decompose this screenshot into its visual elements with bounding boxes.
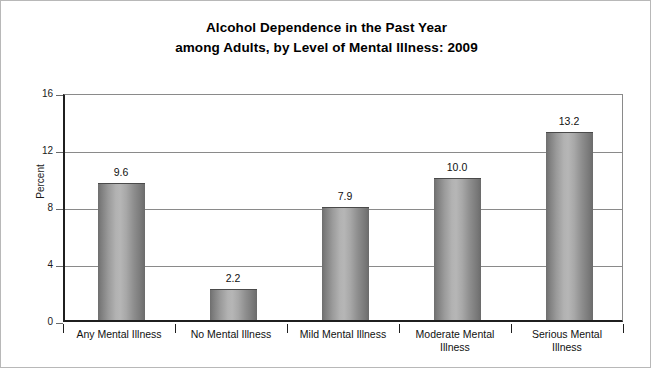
y-tick-label: 16: [29, 88, 53, 99]
x-axis-separator-tick: [287, 324, 288, 333]
x-axis-category-label: No Mental Illness: [175, 328, 287, 341]
y-tick-label: 0: [29, 316, 53, 327]
bar-series: 9.62.27.910.013.2: [65, 95, 622, 320]
bar: [322, 207, 369, 320]
y-tick-mark: [56, 152, 63, 153]
x-axis-category-line: Any Mental Illness: [63, 328, 175, 341]
y-tick-mark: [56, 95, 63, 96]
x-axis-category-line: No Mental Illness: [175, 328, 287, 341]
bar: [546, 132, 593, 320]
x-axis-category-line: Serious Mental: [511, 328, 623, 341]
y-tick-label: 12: [29, 145, 53, 156]
bar: [210, 289, 257, 320]
y-tick-label: 4: [29, 259, 53, 270]
y-tick-label: 8: [29, 202, 53, 213]
x-axis-category-line: Illness: [511, 341, 623, 354]
chart-title-line-1: Alcohol Dependence in the Past Year: [1, 18, 651, 38]
plot-area: 0481216 9.62.27.910.013.2: [63, 94, 623, 322]
bar-value-label: 10.0: [422, 161, 492, 173]
chart-figure: Alcohol Dependence in the Past Year amon…: [0, 0, 651, 368]
bar-value-label: 9.6: [86, 166, 156, 178]
x-axis-separator-tick: [511, 324, 512, 333]
chart-title-line-2: among Adults, by Level of Mental Illness…: [1, 38, 651, 58]
y-tick-mark: [56, 209, 63, 210]
x-axis-separator-tick: [399, 324, 400, 333]
x-axis-category-label: Mild Mental Illness: [287, 328, 399, 341]
x-axis-categories: Any Mental IllnessNo Mental IllnessMild …: [63, 324, 623, 366]
bar-slot: 13.2: [513, 95, 625, 320]
x-axis-category-line: Moderate Mental: [399, 328, 511, 341]
bar-slot: 9.6: [65, 95, 177, 320]
x-axis-separator-tick: [175, 324, 176, 333]
x-axis-category-line: Mild Mental Illness: [287, 328, 399, 341]
x-axis-separator-tick: [623, 324, 624, 333]
chart-title: Alcohol Dependence in the Past Year amon…: [1, 18, 651, 58]
bar-slot: 2.2: [177, 95, 289, 320]
bar-slot: 10.0: [401, 95, 513, 320]
x-axis-category-label: Serious MentalIllness: [511, 328, 623, 354]
x-axis-category-label: Any Mental Illness: [63, 328, 175, 341]
x-axis-category-line: Illness: [399, 341, 511, 354]
bar-value-label: 13.2: [534, 115, 604, 127]
y-tick-mark: [56, 323, 63, 324]
bar-slot: 7.9: [289, 95, 401, 320]
bar-value-label: 7.9: [310, 190, 380, 202]
y-tick-mark: [56, 266, 63, 267]
x-axis-separator-tick: [63, 324, 64, 333]
x-axis-category-label: Moderate MentalIllness: [399, 328, 511, 354]
bar: [434, 178, 481, 321]
bar-value-label: 2.2: [198, 272, 268, 284]
bar: [98, 183, 145, 320]
